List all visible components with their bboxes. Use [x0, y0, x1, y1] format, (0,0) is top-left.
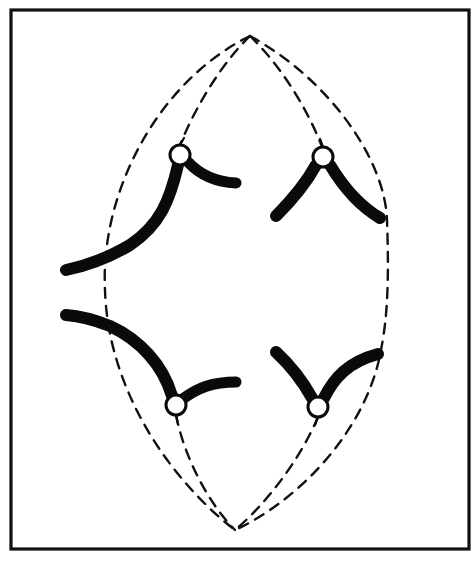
centromere-icon — [170, 145, 190, 165]
spindle-diagram — [0, 0, 475, 564]
chromosome-lower-left — [66, 315, 236, 424]
chromosome-upper-right — [276, 139, 380, 218]
chromosome-upper-left — [66, 138, 236, 270]
centromere-icon — [313, 147, 333, 167]
centromere-icon — [308, 397, 328, 417]
left-arm — [276, 352, 312, 398]
short-arm — [184, 382, 236, 398]
centromere-icon — [166, 395, 186, 415]
short-arm — [188, 162, 236, 183]
long-arm — [66, 165, 178, 270]
inner-right-fiber — [235, 36, 322, 530]
outer-right-fiber — [235, 36, 388, 530]
inner-left-fiber — [176, 36, 250, 530]
outer-left-fiber — [105, 36, 250, 530]
chromosome-lower-right — [276, 352, 378, 425]
diagram-canvas: Spindle with four chromosomes attached a… — [0, 0, 475, 564]
right-arm — [324, 354, 378, 398]
spindle-fibers — [105, 36, 388, 530]
figure-frame — [11, 10, 469, 549]
long-arm — [66, 315, 172, 396]
left-arm — [276, 165, 316, 216]
right-arm — [330, 165, 380, 218]
